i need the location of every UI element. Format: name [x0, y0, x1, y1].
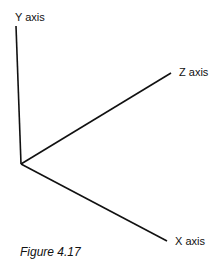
- axes-diagram: [0, 0, 223, 273]
- y-axis-label: Y axis: [15, 12, 45, 23]
- figure-caption: Figure 4.17: [20, 246, 81, 258]
- y-axis-line: [16, 26, 21, 164]
- x-axis-line: [21, 164, 167, 241]
- x-axis-label: X axis: [175, 236, 205, 247]
- z-axis-label: Z axis: [179, 67, 208, 78]
- z-axis-line: [21, 73, 171, 164]
